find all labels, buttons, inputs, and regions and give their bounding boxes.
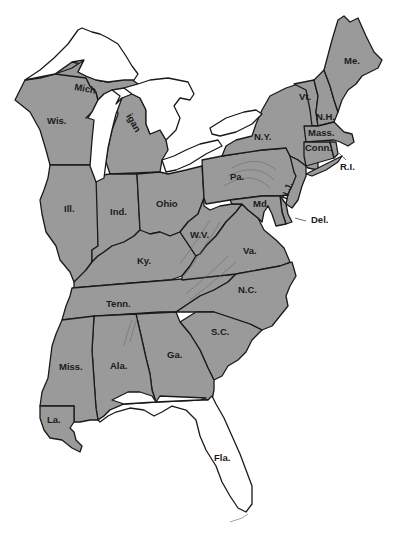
leader-delaware [295, 218, 306, 221]
label-north-carolina: N.C. [238, 284, 257, 295]
label-georgia: Ga. [167, 349, 182, 360]
lake-superior [25, 28, 138, 82]
label-maryland: Md. [253, 198, 269, 209]
label-new-hampshire: N.H. [316, 111, 335, 122]
label-wisconsin: Wis. [47, 115, 66, 126]
label-new-york: N.Y. [254, 131, 271, 142]
label-mississippi: Miss. [59, 361, 83, 372]
label-west-virginia: W.V. [190, 229, 209, 240]
label-ohio: Ohio [156, 198, 178, 209]
label-alabama: Ala. [110, 360, 127, 371]
label-south-carolina: S.C. [211, 326, 229, 337]
label-maine: Me. [344, 55, 360, 66]
label-connecticut: Conn. [305, 142, 332, 153]
eastern-us-map: Me. Vt. N.H. Mass. Conn. R.I. N.Y. Pa. N… [0, 0, 402, 539]
label-vermont: Vt. [299, 91, 311, 102]
label-rhode-island: R.I. [340, 161, 355, 172]
label-illinois: Ill. [64, 203, 75, 214]
label-virginia: Va. [243, 245, 257, 256]
label-florida: Fla. [214, 452, 230, 463]
label-indiana: Ind. [110, 206, 127, 217]
label-louisiana: La. [47, 414, 61, 425]
label-kentucky: Ky. [137, 255, 151, 266]
florida-keys [230, 514, 248, 522]
label-delaware: Del. [311, 214, 328, 225]
label-pennsylvania: Pa. [230, 171, 244, 182]
label-massachusetts: Mass. [308, 127, 334, 138]
label-tennessee: Tenn. [106, 298, 131, 309]
state-illinois [40, 165, 98, 282]
